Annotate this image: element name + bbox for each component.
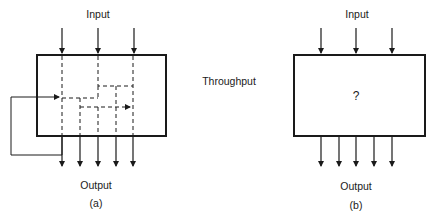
- panel-a-caption: (a): [90, 197, 103, 209]
- unknown-question-mark: ?: [353, 89, 360, 103]
- panel-b-input-arrows: [321, 28, 392, 53]
- throughput-diagram: Input Output (a: [0, 0, 433, 217]
- panel-b-output-label: Output: [340, 180, 372, 192]
- throughput-label: Throughput: [202, 75, 256, 87]
- panel-b: Input ? Output (b): [294, 8, 425, 211]
- panel-a-internal-paths: [62, 56, 133, 136]
- panel-a: Input Output (a: [11, 8, 166, 209]
- panel-a-output-label: Output: [80, 179, 112, 191]
- panel-a-input-arrows: [62, 28, 134, 53]
- panel-b-caption: (b): [350, 199, 363, 211]
- panel-a-system-box: [37, 55, 166, 136]
- panel-a-input-label: Input: [86, 8, 109, 20]
- panel-b-black-box: [294, 55, 425, 136]
- panel-b-output-arrows: [321, 137, 392, 166]
- panel-b-input-label: Input: [345, 8, 368, 20]
- panel-a-output-arrows: [62, 137, 133, 166]
